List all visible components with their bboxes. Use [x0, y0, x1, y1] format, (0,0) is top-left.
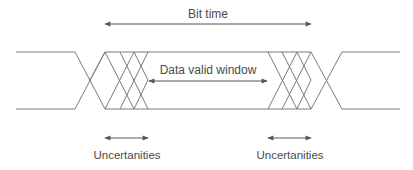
- eye-diagram-svg: Bit time Data valid window Uncertanities…: [0, 0, 413, 170]
- uncertainty-left-label: Uncertanities: [93, 149, 160, 161]
- uncertainty-right-label: Uncertanities: [256, 149, 323, 161]
- bit-time-label: Bit time: [188, 7, 228, 21]
- eye-diagram: Bit time Data valid window Uncertanities…: [0, 0, 413, 170]
- data-valid-window-label: Data valid window: [160, 63, 257, 77]
